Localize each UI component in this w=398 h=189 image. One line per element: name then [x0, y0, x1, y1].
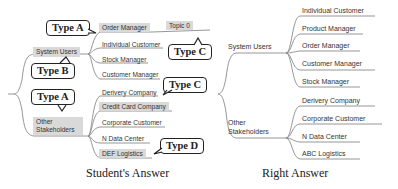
student-answer-caption: Student's Answer: [86, 166, 169, 181]
right-node-derivery-company: Derivery Company: [302, 96, 360, 105]
right-branch-system-users-label: System Users: [228, 43, 272, 50]
right-branch-other-line2: Stakeholders: [228, 127, 269, 136]
right-node-label: N Data Center: [302, 133, 347, 140]
right-node-label: Corporate Customer: [302, 115, 365, 122]
right-branch-system-users: System Users: [228, 42, 272, 51]
right-node-label: Order Manager: [302, 42, 349, 49]
right-node-customer-manager: Customer Manager: [302, 59, 362, 68]
right-node-label: ABC Logistics: [302, 150, 346, 157]
right-node-individual-customer: Individual Customer: [302, 6, 364, 15]
right-node-order-manager: Order Manager: [302, 41, 349, 50]
right-node-corporate-customer: Corporate Customer: [302, 114, 365, 123]
right-node-label: Derivery Company: [302, 97, 360, 104]
right-node-label: Customer Manager: [302, 60, 362, 67]
right-node-n-data-center: N Data Center: [302, 132, 347, 141]
right-branch-other-line1: Other: [228, 118, 269, 127]
right-node-abc-logistics: ABC Logistics: [302, 149, 346, 158]
right-branch-other-stakeholders: Other Stakeholders: [228, 118, 269, 136]
right-answer-caption: Right Answer: [262, 166, 328, 181]
right-node-label: Individual Customer: [302, 7, 364, 14]
right-node-stock-manager: Stock Manager: [302, 77, 349, 86]
right-node-product-manager: Product Manager: [302, 24, 356, 33]
right-node-label: Product Manager: [302, 25, 356, 32]
right-node-label: Stock Manager: [302, 78, 349, 85]
